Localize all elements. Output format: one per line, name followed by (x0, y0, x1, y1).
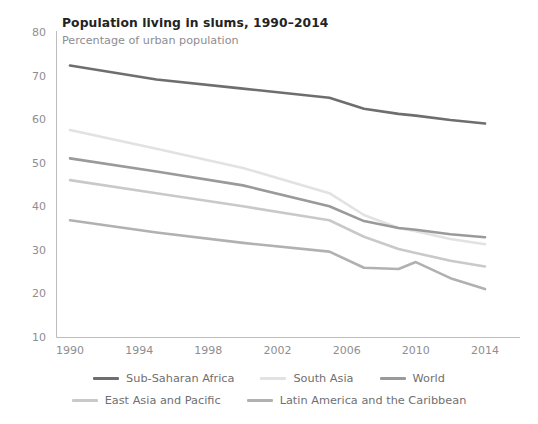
legend-row-top: Sub-Saharan AfricaSouth AsiaWorld (0, 372, 538, 385)
y-tick-label: 50 (32, 157, 46, 170)
legend-label: Latin America and the Caribbean (280, 394, 467, 407)
series-line (70, 158, 485, 237)
x-tick-labels: 1990199419982002200620102014 (56, 344, 499, 357)
y-tick-label: 70 (32, 70, 46, 83)
legend-label: Sub-Saharan Africa (126, 372, 234, 385)
legend-swatch-icon (260, 377, 286, 380)
legend-row-bottom: East Asia and PacificLatin America and t… (0, 394, 538, 407)
x-tick-label: 1998 (194, 344, 222, 357)
series-line (70, 130, 485, 244)
legend-swatch-icon (247, 399, 273, 402)
legend-label: World (413, 372, 445, 385)
series-line (70, 66, 485, 124)
y-tick-label: 10 (32, 331, 46, 344)
chart-legend: Sub-Saharan AfricaSouth AsiaWorld East A… (0, 372, 538, 416)
x-tick-label: 1994 (125, 344, 153, 357)
y-tick-labels: 1020304050607080 (32, 26, 46, 344)
y-tick-label: 30 (32, 244, 46, 257)
legend-swatch-icon (380, 377, 406, 380)
x-axis: 1990199419982002200620102014 (56, 338, 520, 358)
legend-label: East Asia and Pacific (105, 394, 221, 407)
x-tick-label: 2006 (333, 344, 361, 357)
legend-item[interactable]: Latin America and the Caribbean (247, 394, 467, 407)
x-tick-label: 2002 (264, 344, 292, 357)
legend-swatch-icon (93, 377, 119, 380)
x-tick-label: 2010 (402, 344, 430, 357)
y-tick-label: 80 (32, 26, 46, 39)
legend-item[interactable]: South Asia (260, 372, 353, 385)
chart-container: Population living in slums, 1990–2014 Pe… (0, 0, 538, 424)
legend-label: South Asia (293, 372, 353, 385)
chart-plot-svg: 1020304050607080 19901994199820022006201… (0, 0, 538, 372)
x-tick-label: 1990 (56, 344, 84, 357)
y-tick-label: 60 (32, 113, 46, 126)
x-tick-label: 2014 (471, 344, 499, 357)
y-tick-label: 20 (32, 287, 46, 300)
legend-item[interactable]: East Asia and Pacific (72, 394, 221, 407)
series-lines (70, 66, 485, 290)
legend-swatch-icon (72, 399, 98, 402)
legend-item[interactable]: Sub-Saharan Africa (93, 372, 234, 385)
legend-item[interactable]: World (380, 372, 445, 385)
y-axis: 1020304050607080 (32, 26, 57, 344)
y-tick-label: 40 (32, 200, 46, 213)
